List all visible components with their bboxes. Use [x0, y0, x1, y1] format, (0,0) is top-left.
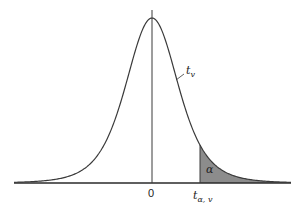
- critical-label-subscript: α, v: [197, 195, 212, 204]
- t-distribution-diagram: tv α 0 tα, v: [0, 0, 299, 207]
- curve-label-leader-line: [176, 74, 184, 80]
- curve-label-subscript: v: [190, 70, 195, 79]
- critical-value-label: tα, v: [193, 189, 213, 204]
- area-label-alpha: α: [206, 163, 214, 176]
- origin-label: 0: [148, 187, 154, 199]
- curve-label: tv: [186, 64, 195, 79]
